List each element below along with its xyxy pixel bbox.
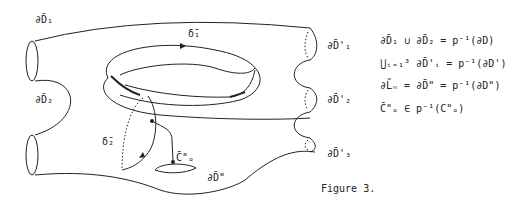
equation-1: ∂D̄₁ ∪ ∂D̄₂ = p⁻¹(∂D)	[380, 35, 494, 46]
surface-diagram	[0, 0, 513, 199]
equation-3: ∂L̃ₙ = ∂D̄" = p⁻¹(∂D")	[380, 80, 500, 91]
equation-4: C̄"ₒ ∈ p⁻¹(C"ₒ)	[380, 103, 464, 114]
c-o-point	[171, 160, 175, 164]
label-dD2: ∂D̄₂	[35, 94, 53, 106]
intersection-point	[150, 119, 154, 123]
delta1-arrow	[180, 43, 186, 49]
label-delta2: δ̄₂	[102, 136, 114, 148]
delta2-loop	[122, 96, 156, 170]
label-delta1: δ̄₁	[188, 28, 200, 40]
label-dDp3: ∂D̄'₃	[327, 148, 351, 160]
label-dDp1: ∂D̄'₁	[327, 40, 351, 52]
label-c-o: C̄"ₒ	[176, 152, 194, 164]
boundary-circle-d2	[26, 135, 38, 175]
label-dDp2: ∂D̄'₂	[327, 94, 351, 106]
label-dDpp: ∂D̄"	[207, 172, 225, 184]
figure-caption: Figure 3.	[321, 183, 375, 194]
delta2-arrow	[139, 152, 145, 158]
torus-outer	[106, 45, 260, 105]
equation-2: ⋃ᵢ₌₁³ ∂D̄'ᵢ = p⁻¹(∂D')	[380, 58, 506, 69]
label-dD1: ∂D̄₁	[35, 14, 53, 26]
boundary-circle-d1	[26, 41, 38, 81]
